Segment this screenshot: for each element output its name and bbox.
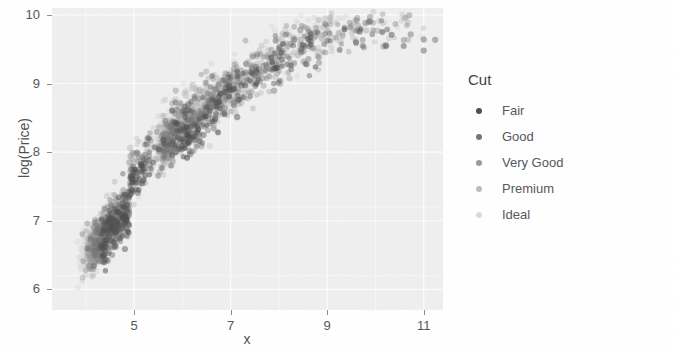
legend-item[interactable]: Ideal bbox=[466, 202, 656, 228]
y-tick-mark bbox=[47, 289, 52, 290]
x-tick-mark bbox=[134, 310, 135, 315]
x-tick-mark bbox=[424, 310, 425, 315]
x-tick-mark bbox=[327, 310, 328, 315]
y-tick-label: 10 bbox=[2, 8, 40, 22]
legend-color-dot-icon bbox=[476, 160, 482, 166]
scatter-plot-figure: 678910 57911 log(Price) x Cut FairGoodVe… bbox=[0, 0, 673, 349]
y-tick-mark bbox=[47, 221, 52, 222]
data-points-layer bbox=[52, 8, 443, 310]
scatter-points bbox=[52, 8, 443, 310]
legend-item-label: Premium bbox=[502, 182, 554, 196]
legend-item[interactable]: Premium bbox=[466, 176, 656, 202]
y-tick-label: 6 bbox=[2, 282, 40, 296]
legend-item[interactable]: Fair bbox=[466, 98, 656, 124]
legend-color-dot-icon bbox=[476, 108, 482, 114]
y-tick-mark bbox=[47, 15, 52, 16]
plot-panel bbox=[52, 8, 443, 310]
legend-key bbox=[466, 204, 492, 226]
x-tick-label: 5 bbox=[114, 319, 154, 333]
legend-color-dot-icon bbox=[476, 134, 482, 140]
legend-color-dot-icon bbox=[476, 186, 482, 192]
legend-color-dot-icon bbox=[476, 212, 482, 218]
legend-title: Cut bbox=[468, 72, 656, 88]
y-tick-mark bbox=[47, 152, 52, 153]
legend-item-label: Ideal bbox=[502, 208, 530, 222]
legend-key bbox=[466, 126, 492, 148]
legend-item-label: Fair bbox=[502, 104, 524, 118]
legend-key bbox=[466, 152, 492, 174]
legend-key bbox=[466, 178, 492, 200]
y-tick-mark bbox=[47, 84, 52, 85]
y-axis-title: log(Price) bbox=[16, 88, 32, 208]
x-tick-mark bbox=[231, 310, 232, 315]
x-tick-label: 9 bbox=[307, 319, 347, 333]
legend-item-label: Good bbox=[502, 130, 534, 144]
legend-items: FairGoodVery GoodPremiumIdeal bbox=[466, 98, 656, 228]
legend-item-label: Very Good bbox=[502, 156, 563, 170]
legend: Cut FairGoodVery GoodPremiumIdeal bbox=[466, 72, 656, 228]
legend-item[interactable]: Good bbox=[466, 124, 656, 150]
legend-key bbox=[466, 100, 492, 122]
y-tick-label: 7 bbox=[2, 214, 40, 228]
x-axis-title: x bbox=[187, 331, 307, 347]
legend-item[interactable]: Very Good bbox=[466, 150, 656, 176]
x-tick-label: 11 bbox=[404, 319, 444, 333]
